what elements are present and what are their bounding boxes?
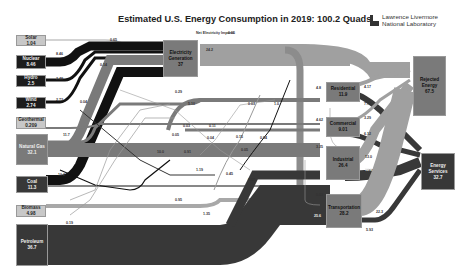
flow-label: 0.97	[248, 178, 255, 182]
node-value: 37	[178, 62, 183, 68]
node-nuclear: Nuclear8.46	[16, 55, 46, 69]
flow-label: 0.29	[175, 90, 182, 94]
flow-label: 1.35	[203, 212, 210, 216]
node-value: 26.4	[339, 163, 348, 169]
flow-label: 25.6	[314, 214, 321, 218]
flow-label: 0.05	[172, 133, 179, 137]
flow-label: 0.04	[207, 136, 214, 140]
net-imports-value: 0.05	[228, 31, 235, 35]
trans-services-label: 5.93	[366, 228, 373, 232]
node-geothermal: Geothermal0.209	[16, 117, 46, 129]
trans-rejected-label: 22.3	[376, 210, 383, 214]
ind-services-label: 12.8	[365, 168, 372, 172]
com-rejected-label: 3.29	[364, 116, 371, 120]
flow-label: 0.11	[209, 124, 216, 128]
node-solar: Solar1.04	[16, 35, 46, 46]
flow-label: 0.03	[183, 124, 190, 128]
node-petroleum: Petroleum36.7	[16, 224, 48, 266]
res-rejected-label: 4.17	[364, 85, 371, 89]
node-electricity-generation: Electricity Generation37	[163, 40, 198, 77]
com-elec-label: 4.62	[316, 118, 323, 122]
elec-loss-label: 24.2	[206, 48, 213, 52]
node-value: 67.5	[425, 89, 434, 95]
flow-label: 0.95	[175, 198, 182, 202]
node-value: 0.209	[25, 123, 37, 129]
node-value: 36.7	[28, 245, 37, 251]
trans-elec-label: 0.03	[316, 193, 323, 197]
flow-label: 2.73	[56, 98, 63, 102]
flow-label: 10.2	[58, 173, 65, 177]
flow-label: 0.65	[110, 38, 117, 42]
ind-elec-label: 3.25	[316, 145, 323, 149]
ind-rejected-label: 13.0	[365, 155, 372, 159]
flow-label: 8.46	[56, 52, 63, 56]
node-residential: Residential11.9	[326, 82, 360, 102]
node-biomass: Biomass4.98	[16, 205, 46, 217]
flow-label: 1.0	[274, 102, 279, 106]
node-label: Energy Services	[422, 163, 454, 175]
flow-label: 1.19	[196, 168, 203, 172]
node-hydro: Hydro2.5	[16, 75, 46, 87]
flow-label: 0.14	[100, 63, 107, 67]
node-value: 11.3	[28, 185, 37, 191]
flow-label: 0.04	[80, 100, 87, 104]
flow-label: 0.05	[241, 148, 248, 152]
node-label: Electricity Generation	[164, 50, 197, 62]
node-value: 1.04	[27, 41, 36, 47]
node-industrial: Industrial26.4	[326, 146, 360, 180]
node-value: 2.74	[27, 103, 36, 109]
com-services-label: 6.12	[364, 132, 371, 136]
res-elec-label: 4.8	[316, 86, 321, 90]
flow-label: 0.19	[66, 221, 73, 225]
node-natural-gas: Natural Gas32.1	[16, 134, 48, 165]
res-services-label: 7.74	[364, 102, 371, 106]
node-value: 32.1	[28, 150, 37, 156]
sankey-flows	[0, 0, 469, 279]
node-value: 9.01	[339, 127, 348, 133]
flow-label: 0.45	[226, 172, 233, 176]
node-value: 32.7	[434, 175, 443, 181]
node-value: 2.5	[28, 81, 34, 87]
flow-label: 0.15	[236, 135, 243, 139]
flow-label: 0.91	[184, 150, 191, 154]
node-value: 8.46	[27, 62, 36, 68]
node-rejected-energy: Rejected Energy67.5	[413, 56, 446, 116]
node-value: 4.98	[27, 211, 36, 217]
flow-label: 5.10	[188, 102, 195, 106]
node-value: 11.9	[339, 92, 348, 98]
flow-label: 2.48	[56, 77, 63, 81]
flow-label: 0.03	[248, 102, 255, 106]
node-value: 28.2	[340, 211, 349, 217]
node-coal: Coal11.3	[16, 176, 48, 193]
flow-label: 0.84	[260, 136, 267, 140]
node-commercial: Commercial9.01	[326, 117, 360, 137]
flow-label: 10.0	[157, 150, 164, 154]
node-transportation: Transportation28.2	[326, 194, 362, 228]
node-label: Rejected Energy	[414, 77, 445, 89]
node-energy-services: Energy Services32.7	[421, 153, 455, 190]
flow-label: 11.7	[63, 133, 70, 137]
node-wind: Wind2.74	[16, 97, 46, 109]
